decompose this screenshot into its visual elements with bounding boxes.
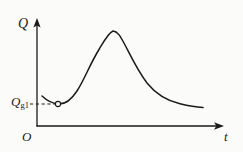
origin-label: O	[22, 130, 31, 143]
x-axis-label: t	[224, 130, 228, 143]
threshold-label-base: Q	[11, 94, 20, 109]
axes-group	[33, 18, 224, 130]
threshold-label-subscript: g1	[20, 100, 29, 110]
local-minimum-marker-icon	[55, 101, 60, 106]
curve-q-of-t	[42, 31, 203, 108]
curve-plot-svg	[0, 0, 243, 152]
threshold-label: Qg1	[11, 95, 29, 110]
figure-container: Q t O Qg1	[0, 0, 243, 152]
y-axis-label: Q	[18, 17, 28, 31]
